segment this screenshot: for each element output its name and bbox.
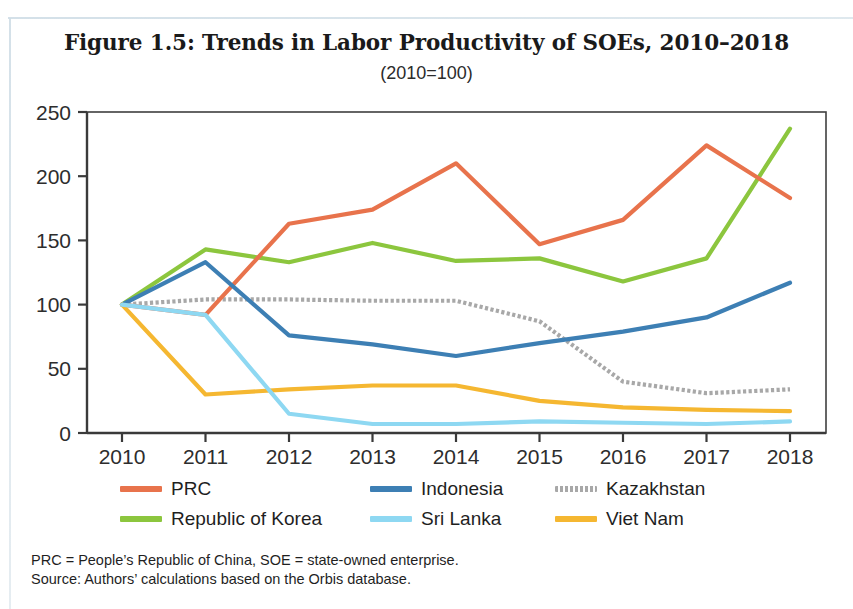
figure-page: Figure 1.5: Trends in Labor Productivity… xyxy=(0,0,853,609)
legend-swatch-icon xyxy=(370,516,412,522)
series-line-indonesia xyxy=(122,262,790,356)
x-tick-label: 2011 xyxy=(183,445,228,468)
chart-legend: PRCIndonesiaKazakhstanRepublic of KoreaS… xyxy=(120,474,820,534)
legend-item-kazakhstan[interactable]: Kazakhstan xyxy=(555,478,785,500)
x-tick-label: 2015 xyxy=(516,445,563,468)
chart-axes xyxy=(78,112,826,442)
x-tick-label: 2010 xyxy=(99,445,146,468)
y-tick-label: 250 xyxy=(36,101,71,124)
legend-label: PRC xyxy=(171,478,211,500)
x-tick-label: 2017 xyxy=(683,445,730,468)
legend-swatch-icon xyxy=(120,516,162,522)
note-abbreviations: PRC = People’s Republic of China, SOE = … xyxy=(31,551,459,570)
y-tick-label: 50 xyxy=(48,357,71,380)
series-line-kazakhstan xyxy=(122,299,790,393)
legend-label: Republic of Korea xyxy=(171,508,322,530)
x-tick-label: 2016 xyxy=(600,445,647,468)
legend-item-sri-lanka[interactable]: Sri Lanka xyxy=(370,508,555,530)
legend-item-viet-nam[interactable]: Viet Nam xyxy=(555,508,785,530)
series-line-prc xyxy=(122,145,790,314)
note-source: Source: Authors’ calculations based on t… xyxy=(31,570,459,589)
y-tick-label: 150 xyxy=(36,229,71,252)
y-tick-label: 0 xyxy=(59,422,71,445)
x-tick-label: 2014 xyxy=(433,445,480,468)
legend-swatch-icon xyxy=(555,486,597,492)
legend-item-indonesia[interactable]: Indonesia xyxy=(370,478,555,500)
legend-label: Viet Nam xyxy=(606,508,684,530)
series-line-sri-lanka xyxy=(122,305,790,424)
legend-item-republic-of-korea[interactable]: Republic of Korea xyxy=(120,508,370,530)
legend-label: Sri Lanka xyxy=(421,508,501,530)
legend-item-prc[interactable]: PRC xyxy=(120,478,370,500)
x-tick-label: 2018 xyxy=(767,445,814,468)
figure-notes: PRC = People’s Republic of China, SOE = … xyxy=(31,551,459,589)
y-tick-label: 200 xyxy=(36,165,71,188)
legend-swatch-icon xyxy=(370,486,412,492)
x-tick-label: 2012 xyxy=(266,445,313,468)
legend-label: Kazakhstan xyxy=(606,478,705,500)
legend-swatch-icon xyxy=(120,486,162,492)
y-tick-label: 100 xyxy=(36,293,71,316)
x-tick-label: 2013 xyxy=(349,445,396,468)
legend-swatch-icon xyxy=(555,516,597,522)
chart-series-lines xyxy=(122,129,790,424)
legend-label: Indonesia xyxy=(421,478,503,500)
